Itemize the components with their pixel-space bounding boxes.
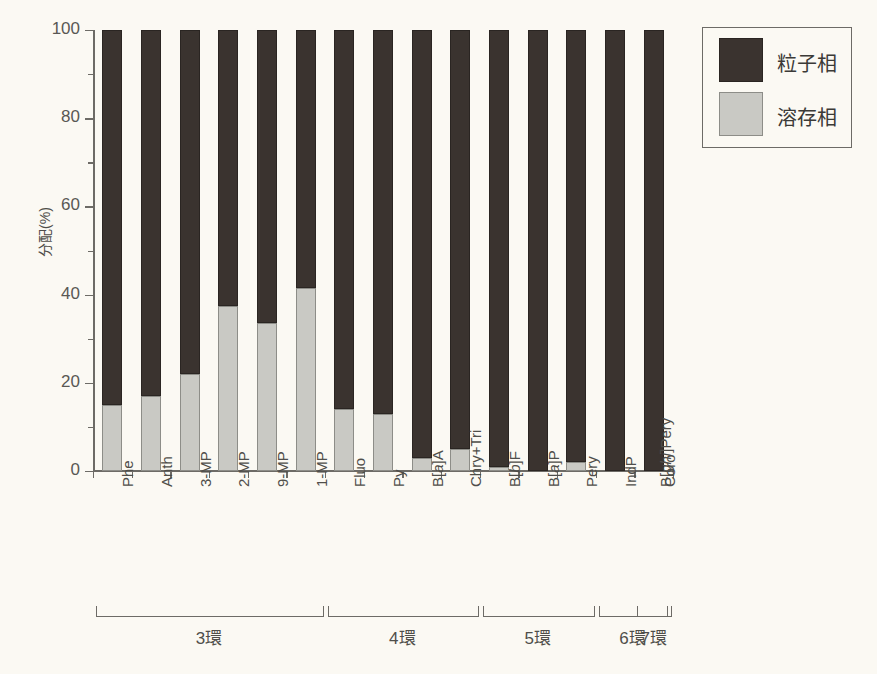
y-tick-major-20 <box>85 383 93 384</box>
chart-canvas: 分配(%) 020406080100 PheAnth3-MP2-MP9-MP1-… <box>0 0 877 674</box>
legend-label-particle-phase: 粒子相 <box>777 48 837 77</box>
x-label-IndP: IndP <box>622 456 639 487</box>
bar-Anth <box>141 30 161 471</box>
group-bracket-4環 <box>328 606 479 617</box>
bar-segment-particle-phase <box>257 30 277 323</box>
bar-3-MP <box>180 30 200 471</box>
y-tick-label-60: 60 <box>38 196 80 213</box>
bar-B[a]P <box>528 30 548 471</box>
bar-segment-dissolved-phase <box>373 414 393 471</box>
legend-swatch-dissolved-phase <box>719 92 763 136</box>
x-label-9-MP: 9-MP <box>274 451 291 487</box>
bar-segment-particle-phase <box>528 30 548 471</box>
x-label-B[b]F: B[b]F <box>506 451 523 487</box>
bar-segment-particle-phase <box>412 30 432 458</box>
y-tick-label-100: 100 <box>38 20 80 37</box>
x-label-B[a]A: B[a]A <box>429 450 446 487</box>
bar-segment-particle-phase <box>218 30 238 306</box>
bar-1-MP <box>296 30 316 471</box>
y-tick-major-80 <box>85 118 93 119</box>
bar-segment-particle-phase <box>180 30 200 374</box>
bar-2-MP <box>218 30 238 471</box>
x-label-Anth: Anth <box>158 456 175 487</box>
legend-swatch-particle-phase <box>719 38 763 82</box>
bar-B[b]F <box>489 30 509 471</box>
x-label-Coro: Coro <box>661 454 678 487</box>
x-label-1-MP: 1-MP <box>313 451 330 487</box>
bar-segment-particle-phase <box>450 30 470 449</box>
group-label-7環: 7環 <box>637 624 670 649</box>
bar-Phe <box>102 30 122 471</box>
y-tick-label-20: 20 <box>38 373 80 390</box>
bar-segment-particle-phase <box>605 30 625 471</box>
bar-segment-particle-phase <box>296 30 316 288</box>
bar-B[ghi]Pery <box>644 30 664 471</box>
bar-segment-particle-phase <box>489 30 509 467</box>
x-label-2-MP: 2-MP <box>235 451 252 487</box>
bar-segment-particle-phase <box>566 30 586 462</box>
bar-Fluo <box>334 30 354 471</box>
legend-box: 粒子相 溶存相 <box>702 27 852 148</box>
bar-segment-particle-phase <box>334 30 354 409</box>
bar-Chry+Tri <box>450 30 470 471</box>
bar-segment-particle-phase <box>141 30 161 396</box>
bar-segment-dissolved-phase <box>296 288 316 471</box>
x-label-3-MP: 3-MP <box>197 451 214 487</box>
y-tick-label-40: 40 <box>38 285 80 302</box>
group-label-5環: 5環 <box>483 624 593 649</box>
x-label-Chry+Tri: Chry+Tri <box>467 430 484 487</box>
bar-Pery <box>566 30 586 471</box>
group-bracket-5環 <box>483 606 595 617</box>
x-tick-0 <box>93 470 94 478</box>
y-tick-major-40 <box>85 295 93 296</box>
bar-B[a]A <box>412 30 432 471</box>
bar-9-MP <box>257 30 277 471</box>
bar-segment-particle-phase <box>644 30 664 471</box>
x-label-Fluo: Fluo <box>351 458 368 487</box>
bars-plot-area <box>93 30 673 471</box>
bar-segment-particle-phase <box>102 30 122 405</box>
y-axis-tick-labels: 020406080100 <box>20 0 80 500</box>
bar-Py <box>373 30 393 471</box>
bar-segment-dissolved-phase <box>218 306 238 471</box>
group-bracket-7環 <box>637 606 672 617</box>
bar-IndP <box>605 30 625 471</box>
bar-segment-dissolved-phase <box>257 323 277 471</box>
bar-segment-particle-phase <box>373 30 393 414</box>
y-tick-major-0 <box>85 471 93 472</box>
legend-label-dissolved-phase: 溶存相 <box>777 102 837 131</box>
y-tick-label-0: 0 <box>38 461 80 478</box>
y-tick-label-80: 80 <box>38 108 80 125</box>
x-label-B[a]P: B[a]P <box>545 450 562 487</box>
x-label-Py: Py <box>390 469 407 487</box>
x-label-Pery: Pery <box>583 456 600 487</box>
group-label-3環: 3環 <box>96 624 322 649</box>
group-bracket-3環 <box>96 606 324 617</box>
y-tick-major-60 <box>85 206 93 207</box>
group-label-4環: 4環 <box>328 624 477 649</box>
x-label-Phe: Phe <box>119 460 136 487</box>
y-tick-major-100 <box>85 30 93 31</box>
